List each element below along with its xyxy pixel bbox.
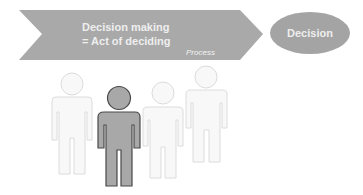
person-icon-3 (143, 82, 183, 178)
decision-label: Decision (271, 27, 349, 39)
process-title-line-1: Decision making (82, 21, 169, 34)
person-icon-4 (186, 66, 227, 162)
person-icon-highlighted (98, 87, 140, 187)
process-title-line-2: = Act of deciding (82, 35, 171, 48)
process-caption: Process (186, 48, 215, 57)
person-icon-1 (52, 73, 92, 174)
